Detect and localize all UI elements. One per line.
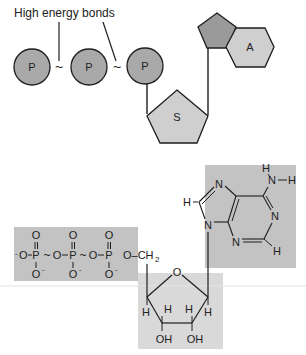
svg-text:H: H [185,303,193,315]
svg-text:P: P [85,61,92,73]
svg-text:H: H [262,162,270,174]
svg-text:P: P [105,249,112,261]
svg-text:H: H [288,174,296,186]
svg-text:H: H [142,306,150,318]
svg-text:O: O [89,249,98,261]
svg-text:O: O [173,266,182,278]
svg-text:O: O [32,229,41,241]
svg-text:O: O [32,268,41,280]
svg-text:P: P [28,61,35,73]
svg-text:P: P [32,249,39,261]
svg-text:~: ~ [79,248,86,262]
schematic-atp: High energy bonds P ~ P ~ P S [14,6,274,143]
pointer-line-2 [103,22,116,61]
svg-text:H: H [164,303,172,315]
svg-text:N: N [232,236,240,248]
svg-text:O: O [105,229,114,241]
svg-text:O: O [69,268,78,280]
svg-text:O: O [69,229,78,241]
svg-text:A: A [246,41,254,53]
svg-text:N: N [215,178,223,190]
svg-text:P: P [69,249,76,261]
phosphate-circle-3: P [127,48,163,84]
svg-text:2: 2 [155,255,160,264]
svg-text:H: H [273,245,281,257]
svg-text:O–CH: O–CH [123,249,154,261]
adenine-base-shape: A [198,13,274,67]
svg-text:O: O [53,249,62,261]
svg-text:OH: OH [156,333,173,345]
phosphate-circle-2: P [71,49,107,85]
svg-text:S: S [173,111,180,123]
svg-text:H: H [204,306,212,318]
chemical-structure: O O O - O P ~ O P ~ O P O–CH 2 [0,162,306,349]
high-energy-bond-1: ~ [55,59,63,75]
svg-text:~: ~ [43,248,50,262]
atp-diagram: High energy bonds P ~ P ~ P S [0,0,306,355]
svg-text:OH: OH [187,333,204,345]
svg-text:O: O [19,249,28,261]
svg-text:P: P [141,60,148,72]
svg-text:N: N [271,210,279,222]
svg-text:N: N [204,219,212,231]
svg-text:H: H [183,196,191,208]
high-energy-bonds-label: High energy bonds [14,6,115,20]
high-energy-bond-2: ~ [113,59,121,75]
sugar-pentagon: S [147,90,208,143]
svg-text:O: O [105,268,114,280]
phosphate-circle-1: P [14,49,50,85]
